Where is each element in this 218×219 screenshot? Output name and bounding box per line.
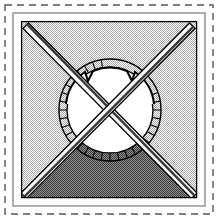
panel-contents <box>21 21 197 199</box>
emblem-figure: Heraldic shield emblem with saltire and … <box>0 0 218 219</box>
figure-canvas: Heraldic shield emblem with saltire and … <box>0 0 218 219</box>
